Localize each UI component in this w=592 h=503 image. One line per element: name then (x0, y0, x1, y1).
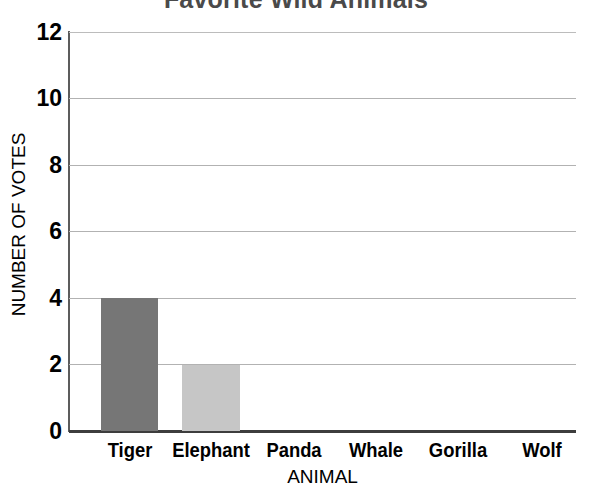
y-tick-0: 0 (0, 420, 62, 443)
y-tick-12: 12 (0, 21, 62, 44)
x-label-panda: Panda (249, 439, 339, 461)
y-tick-10: 10 (0, 87, 62, 110)
x-label-tiger: Tiger (85, 439, 175, 461)
x-label-gorilla: Gorilla (413, 439, 503, 461)
gridline-12 (69, 32, 576, 33)
y-tick-2: 2 (0, 353, 62, 376)
x-label-elephant: Elephant (165, 439, 257, 461)
gridline-6 (69, 231, 576, 232)
chart-title: Favorite Wild Animals (0, 0, 592, 12)
bar-tiger[interactable] (101, 298, 158, 431)
bar-elephant[interactable] (182, 365, 240, 431)
x-axis-title: ANIMAL (69, 467, 576, 486)
gridline-10 (69, 98, 576, 99)
plot-area (69, 32, 576, 431)
x-label-wolf: Wolf (497, 439, 587, 461)
x-label-whale: Whale (331, 439, 421, 461)
y-axis-title: NUMBER OF VOTES (9, 115, 28, 335)
gridline-8 (69, 165, 576, 166)
x-axis-tick-labels: Tiger Elephant Panda Whale Gorilla Wolf (69, 439, 576, 465)
